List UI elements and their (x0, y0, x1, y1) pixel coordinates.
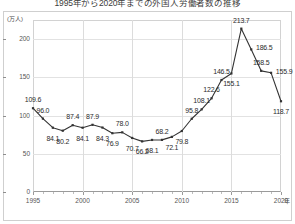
y-axis-tick-label: 0 (26, 188, 30, 195)
data-point-label: 186.5 (256, 44, 273, 51)
x-axis-tick-mark (221, 192, 222, 194)
data-point-label: 87.4 (66, 113, 79, 120)
data-point-marker (82, 127, 84, 129)
x-axis-tick-mark (202, 192, 203, 194)
data-point-label: 78.0 (116, 120, 129, 127)
series-markers (32, 28, 282, 143)
x-axis-tick-mark (162, 192, 163, 194)
x-axis-tick-mark (142, 192, 143, 194)
data-point-label: 80.2 (56, 137, 69, 144)
data-point-marker (42, 118, 44, 120)
x-axis-tick-mark (182, 192, 183, 195)
data-point-marker (191, 118, 193, 120)
data-point-label: 96.0 (36, 106, 49, 113)
x-axis-tick-mark (152, 192, 153, 194)
x-axis-unit-label: 年 (284, 196, 290, 205)
data-point-label: 158.5 (253, 58, 270, 65)
x-axis-tick-mark (251, 192, 252, 194)
y-axis-tick-label: 50 (23, 150, 30, 157)
x-axis-tick-mark (53, 192, 54, 194)
x-axis-tick-mark (102, 192, 103, 194)
x-axis-tick-label: 1995 (26, 197, 40, 204)
y-axis-tick-labels: 050100150200 (6, 20, 30, 192)
chart-title: 1995年から2020年までの外国人労働者数の推移 (0, 0, 295, 8)
data-point-label: 76.9 (106, 140, 119, 147)
data-point-marker (240, 28, 242, 30)
data-point-marker (210, 97, 212, 99)
data-point-marker (52, 127, 54, 129)
line-series (33, 20, 281, 192)
data-point-label: 84.1 (76, 134, 89, 141)
data-point-marker (32, 107, 34, 109)
y-axis-tick-mark (3, 39, 6, 40)
plot-area: 199520002005201020152020 109.696.084.180… (33, 20, 281, 192)
data-point-marker (131, 137, 133, 139)
y-axis-tick-mark (3, 192, 6, 193)
data-point-label: 68.1 (146, 146, 159, 153)
x-axis-tick-label: 2010 (175, 197, 189, 204)
data-point-marker (62, 130, 64, 132)
y-axis-tick-label: 200 (19, 35, 30, 42)
data-point-marker (171, 136, 173, 138)
x-axis-tick-mark (43, 192, 44, 194)
data-point-label: 118.7 (273, 108, 289, 115)
data-point-label: 213.7 (233, 16, 250, 23)
x-axis-tick-mark (172, 192, 173, 194)
x-axis-tick-label: 2005 (125, 197, 139, 204)
data-point-label: 87.9 (86, 112, 99, 119)
x-axis-tick-mark (63, 192, 64, 194)
x-axis-tick-mark (132, 192, 133, 195)
y-axis-tick-mark (3, 116, 6, 117)
data-point-label: 108.1 (193, 97, 210, 104)
data-point-marker (72, 124, 74, 126)
data-point-marker (270, 72, 272, 74)
y-axis-tick-mark (3, 154, 6, 155)
x-axis-tick-mark (261, 192, 262, 194)
data-point-marker (151, 139, 153, 141)
x-axis-tick-mark (231, 192, 232, 195)
x-axis-tick-mark (33, 192, 34, 195)
x-axis-tick-label: 2000 (75, 197, 89, 204)
x-axis-tick-mark (271, 192, 272, 194)
x-axis-tick-mark (73, 192, 74, 194)
y-axis-tick-mark (3, 77, 6, 78)
data-point-marker (91, 124, 93, 126)
y-axis-tick-label: 100 (19, 112, 30, 119)
data-point-marker (141, 140, 143, 142)
data-point-label: 109.6 (25, 96, 42, 103)
x-axis-tick-mark (192, 192, 193, 194)
series-polyline (33, 29, 281, 142)
data-point-label: 155.9 (276, 67, 293, 74)
data-point-marker (181, 130, 183, 132)
x-axis-tick-mark (93, 192, 94, 194)
x-axis-tick-mark (241, 192, 242, 194)
data-point-marker (201, 108, 203, 110)
chart-figure: 1995年から2020年までの外国人労働者数の推移 (万人) 050100150… (0, 0, 295, 224)
data-point-marker (101, 126, 103, 128)
data-point-marker (161, 139, 163, 141)
data-point-label: 155.1 (223, 80, 240, 87)
data-point-marker (111, 132, 113, 134)
x-axis-tick-mark (212, 192, 213, 194)
data-point-label: 68.2 (156, 127, 169, 134)
data-point-marker (250, 48, 252, 50)
data-point-label: 146.5 (213, 68, 230, 75)
x-axis-tick-mark (281, 192, 282, 195)
data-point-label: 122.6 (203, 86, 220, 93)
data-point-marker (280, 100, 282, 102)
data-point-label: 95.8 (185, 106, 198, 113)
x-axis-tick-mark (112, 192, 113, 194)
data-point-marker (230, 72, 232, 74)
x-axis-tick-mark (122, 192, 123, 194)
data-point-marker (260, 70, 262, 72)
y-axis-tick-label: 150 (19, 73, 30, 80)
data-point-label: 79.8 (175, 137, 188, 144)
x-axis-tick-label: 2015 (224, 197, 238, 204)
x-axis-tick-mark (83, 192, 84, 195)
data-point-marker (121, 131, 123, 133)
